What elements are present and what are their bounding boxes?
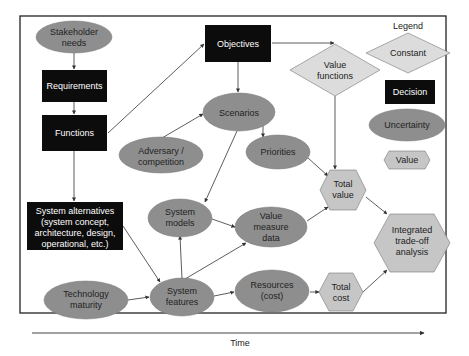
svg-text:needs: needs (62, 38, 87, 48)
svg-text:competition: competition (138, 157, 184, 167)
node-value-functions: Value functions (290, 44, 380, 96)
node-system-alternatives: System alternatives (system concept, arc… (27, 202, 123, 250)
svg-text:Resources: Resources (250, 280, 294, 290)
node-total-cost: Total cost (319, 273, 363, 311)
node-integrated-tradeoff: Integrated trade-off analysis (374, 214, 450, 272)
svg-text:functions: functions (317, 71, 354, 81)
svg-text:Adversary /: Adversary / (138, 146, 184, 156)
node-system-features: System features (150, 278, 214, 316)
influence-diagram: Requirements Functions System alternativ… (0, 0, 469, 356)
edge-totalvalue-integrated (366, 197, 387, 214)
edge-systemmodels-valuemeasure (212, 219, 235, 227)
svg-text:analysis: analysis (396, 247, 429, 257)
node-priorities: Priorities (246, 135, 310, 169)
edge-functions-objectives (108, 44, 204, 133)
svg-text:Value: Value (260, 211, 282, 221)
svg-text:Value: Value (396, 155, 418, 165)
svg-text:Stakeholder: Stakeholder (50, 27, 98, 37)
svg-text:cost: cost (333, 293, 350, 303)
svg-text:System: System (167, 286, 197, 296)
node-total-value: Total value (320, 170, 366, 210)
svg-text:Constant: Constant (390, 48, 427, 58)
svg-text:maturity: maturity (70, 300, 103, 310)
node-value-measure-data: Value measure data (235, 207, 307, 247)
node-technology-maturity: Technology maturity (44, 281, 128, 319)
svg-text:Decision: Decision (393, 87, 428, 97)
svg-text:features: features (166, 297, 199, 307)
edge-scenarios-systemmodels (205, 131, 237, 202)
edge-features-systemmodels (180, 236, 182, 279)
legend-title: Legend (393, 21, 423, 31)
edge-features-resources (214, 292, 234, 296)
edge-totalcost-integrated (363, 270, 387, 292)
edge-alternatives-features (123, 226, 160, 282)
node-objectives: Objectives (205, 25, 271, 62)
svg-text:architecture, design,: architecture, design, (34, 228, 115, 238)
svg-text:System: System (165, 207, 195, 217)
node-stakeholder-needs: Stakeholder needs (36, 21, 112, 53)
edge-maturity-features (128, 297, 149, 300)
svg-text:data: data (262, 233, 280, 243)
svg-text:models: models (165, 218, 195, 228)
legend-value: Value (384, 151, 430, 169)
node-functions: Functions (42, 115, 107, 151)
svg-text:(cost): (cost) (261, 291, 284, 301)
svg-text:(system concept,: (system concept, (41, 217, 109, 227)
svg-text:trade-off: trade-off (395, 236, 429, 246)
svg-text:Objectives: Objectives (217, 39, 260, 49)
node-resources: Resources (cost) (235, 270, 309, 312)
svg-text:value: value (332, 190, 354, 200)
svg-text:Technology: Technology (63, 289, 109, 299)
legend-uncertainty: Uncertainty (369, 109, 445, 141)
svg-text:System alternatives: System alternatives (36, 206, 115, 216)
edge-valuemeasure-totalvalue (307, 207, 328, 221)
svg-text:Value: Value (324, 60, 346, 70)
node-scenarios: Scenarios (203, 93, 275, 131)
time-axis: Time (32, 333, 424, 348)
edge-priorities-totalvalue (308, 158, 328, 176)
svg-text:operational, etc.): operational, etc.) (41, 239, 108, 249)
legend-decision: Decision (385, 80, 435, 104)
svg-text:Uncertainty: Uncertainty (384, 120, 430, 130)
node-requirements: Requirements (42, 70, 107, 102)
legend: Legend Constant Decision Uncertainty Val… (366, 21, 450, 169)
svg-text:Priorities: Priorities (260, 147, 296, 157)
svg-text:Scenarios: Scenarios (219, 108, 260, 118)
svg-text:measure: measure (253, 222, 288, 232)
edge-adversary-scenarios (162, 114, 203, 138)
legend-constant: Constant (366, 33, 450, 73)
node-adversary: Adversary / competition (119, 137, 203, 173)
svg-text:Total: Total (333, 179, 352, 189)
node-system-models: System models (148, 199, 212, 237)
edge-features-valuemeasure (185, 243, 246, 279)
svg-text:Total: Total (331, 282, 350, 292)
time-label: Time (230, 338, 250, 348)
svg-text:Functions: Functions (55, 128, 95, 138)
svg-text:Integrated: Integrated (392, 225, 433, 235)
svg-text:Requirements: Requirements (46, 81, 103, 91)
